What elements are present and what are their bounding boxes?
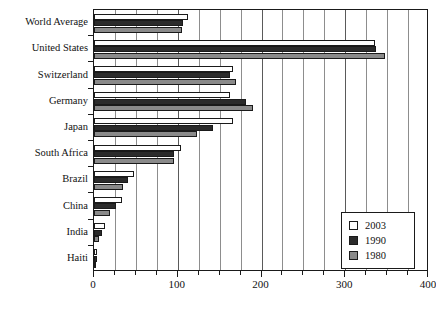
x-axis-tick-label: 400	[420, 278, 436, 291]
x-axis-tick-label: 300	[336, 278, 353, 291]
bar	[94, 79, 236, 85]
bar	[94, 72, 230, 78]
bar-group	[94, 115, 427, 141]
bar	[94, 203, 116, 209]
bar-group	[94, 167, 427, 193]
x-axis-minor-tick	[240, 271, 241, 275]
bar	[94, 27, 182, 33]
x-axis-ticks	[93, 271, 428, 277]
bar	[94, 105, 253, 111]
bar	[94, 230, 102, 236]
x-axis-major-tick	[93, 271, 94, 277]
x-axis-minor-tick	[386, 271, 387, 275]
legend-label: 1980	[365, 250, 386, 261]
category-label: Switzerland	[0, 69, 88, 80]
bar	[94, 158, 174, 164]
category-label: Germany	[0, 95, 88, 106]
legend-label: 1990	[365, 235, 386, 246]
x-axis-tick-label: 200	[252, 278, 269, 291]
white-square-swatch	[349, 221, 358, 230]
x-axis-minor-tick	[323, 271, 324, 275]
bar	[94, 99, 246, 105]
bar	[94, 125, 213, 131]
bar	[94, 249, 97, 255]
bar	[94, 197, 122, 203]
category-label: Japan	[0, 121, 88, 132]
y-axis-tick	[88, 35, 93, 36]
x-axis-labels: 0100200300400	[0, 278, 432, 296]
bar	[94, 151, 174, 157]
x-axis-minor-tick	[156, 271, 157, 275]
x-axis-tick-label: 0	[90, 278, 96, 291]
legend-item: 2003	[349, 218, 408, 233]
category-label: Brazil	[0, 173, 88, 184]
category-label: South Africa	[0, 147, 88, 158]
x-axis-minor-tick	[281, 271, 282, 275]
x-axis-major-tick	[427, 271, 428, 277]
bar	[94, 145, 181, 151]
category-label: World Average	[0, 16, 88, 27]
y-axis-tick	[88, 61, 93, 62]
bar	[94, 66, 233, 72]
y-axis-tick	[88, 88, 93, 89]
bar-group	[94, 10, 427, 36]
y-axis-tick	[88, 114, 93, 115]
bar	[94, 40, 375, 46]
y-axis-tick	[88, 192, 93, 193]
x-axis-minor-tick	[198, 271, 199, 275]
bar	[94, 223, 105, 229]
y-axis-tick	[88, 166, 93, 167]
legend-item: 1990	[349, 233, 408, 248]
x-axis-minor-tick	[302, 271, 303, 275]
x-axis-major-tick	[261, 271, 262, 277]
bar	[94, 92, 230, 98]
black-square-swatch	[349, 236, 358, 245]
bar	[94, 262, 96, 268]
y-axis-tick	[88, 219, 93, 220]
bar	[94, 131, 197, 137]
x-axis-minor-tick	[407, 271, 408, 275]
y-axis-tick	[88, 245, 93, 246]
bar-group	[94, 141, 427, 167]
bar	[94, 171, 134, 177]
x-axis-tick-label: 100	[169, 278, 186, 291]
x-axis-major-tick	[177, 271, 178, 277]
bar	[94, 184, 123, 190]
x-axis-minor-tick	[219, 271, 220, 275]
bar	[94, 177, 128, 183]
bar-group	[94, 36, 427, 62]
chart-legend: 200319901980	[341, 212, 415, 269]
bar-group	[94, 62, 427, 88]
bar	[94, 14, 188, 20]
x-axis-minor-tick	[365, 271, 366, 275]
category-label: United States	[0, 42, 88, 53]
bar	[94, 46, 376, 52]
bar-group	[94, 89, 427, 115]
y-axis-tick	[88, 140, 93, 141]
category-label: Haiti	[0, 252, 88, 263]
legend-item: 1980	[349, 248, 408, 263]
x-axis-minor-tick	[135, 271, 136, 275]
bar	[94, 53, 385, 59]
bar	[94, 118, 233, 124]
category-label: India	[0, 226, 88, 237]
category-label: China	[0, 200, 88, 211]
bar	[94, 210, 110, 216]
x-axis-minor-tick	[114, 271, 115, 275]
category-axis-labels: World AverageUnited StatesSwitzerlandGer…	[0, 9, 88, 271]
bar	[94, 256, 97, 262]
x-axis-major-tick	[344, 271, 345, 277]
bar	[94, 236, 99, 242]
gray-square-swatch	[349, 251, 358, 260]
legend-label: 2003	[365, 220, 386, 231]
bar	[94, 20, 183, 26]
